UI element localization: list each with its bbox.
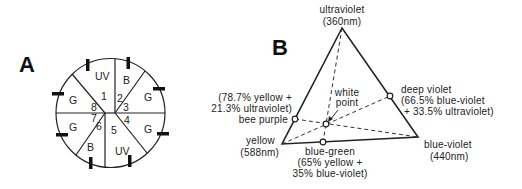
cell-number-3: 3 bbox=[123, 101, 129, 113]
panel-b-label: B bbox=[272, 35, 288, 60]
point-label-bee-purple: (78.7% yellow + 21.3% ultraviolet) bee p… bbox=[211, 92, 292, 125]
cell-number-4: 4 bbox=[124, 114, 130, 126]
bar-r3 bbox=[153, 87, 165, 91]
cell-number-5: 5 bbox=[111, 124, 117, 136]
receptor-label-3: G bbox=[144, 91, 152, 103]
blue-green-point bbox=[320, 139, 326, 145]
svg-text:(66.5% blue-violet: (66.5% blue-violet bbox=[401, 95, 485, 106]
bar-r8 bbox=[52, 92, 64, 96]
cell-number-1: 1 bbox=[101, 90, 107, 102]
svg-text:(440nm): (440nm) bbox=[430, 151, 469, 162]
panel-a: A UV B G bbox=[19, 52, 169, 169]
color-triangle bbox=[282, 28, 418, 144]
svg-text:blue-violet: blue-violet bbox=[424, 139, 472, 150]
svg-text:35% blue-violet): 35% blue-violet) bbox=[293, 168, 368, 179]
point-label-white: white point bbox=[334, 87, 360, 108]
receptor-label-8: G bbox=[69, 94, 77, 106]
bar-r6 bbox=[89, 157, 93, 169]
svg-text:yellow: yellow bbox=[246, 135, 276, 146]
bar-r1 bbox=[86, 59, 90, 71]
bar-r7 bbox=[56, 133, 68, 137]
mixing-lines bbox=[282, 28, 418, 144]
vertex-label-yellow: yellow (588nm) bbox=[240, 135, 279, 158]
line-bee-purple-to-blue-violet bbox=[295, 119, 418, 137]
receptor-label-6: B bbox=[87, 141, 94, 153]
white-point-marker bbox=[323, 121, 329, 127]
svg-text:(588nm): (588nm) bbox=[240, 147, 279, 158]
vertex-label-blue-violet: blue-violet (440nm) bbox=[424, 139, 472, 162]
bar-r2 bbox=[127, 57, 131, 69]
point-label-blue-green: blue-green (65% yellow + 35% blue-violet… bbox=[293, 146, 368, 179]
cell-number-6: 6 bbox=[96, 120, 102, 132]
svg-text:blue-green: blue-green bbox=[305, 146, 355, 157]
receptor-label-7: G bbox=[69, 121, 77, 133]
receptor-label-5: UV bbox=[115, 145, 130, 157]
receptor-label-2: B bbox=[123, 74, 130, 86]
panel-b: B ultraviolet (360nm) yellow (588nm) bbox=[211, 4, 494, 179]
svg-text:(65% yellow +: (65% yellow + bbox=[297, 157, 362, 168]
receptor-label-1: UV bbox=[95, 70, 110, 82]
svg-text:(360nm): (360nm) bbox=[323, 16, 362, 27]
figure: A UV B G bbox=[0, 0, 522, 189]
svg-text:21.3% ultraviolet): 21.3% ultraviolet) bbox=[211, 103, 292, 114]
svg-text:deep violet: deep violet bbox=[401, 84, 452, 95]
receptor-label-4: G bbox=[144, 123, 152, 135]
svg-text:(78.7% yellow +: (78.7% yellow + bbox=[218, 92, 292, 103]
svg-text:ultraviolet: ultraviolet bbox=[320, 4, 365, 15]
svg-text:+ 33.5% ultraviolet): + 33.5% ultraviolet) bbox=[404, 106, 494, 117]
bee-purple-point bbox=[292, 116, 298, 122]
panel-a-label: A bbox=[19, 52, 35, 77]
deep-violet-point bbox=[387, 93, 393, 99]
vertex-label-ultraviolet: ultraviolet (360nm) bbox=[320, 4, 365, 27]
cell-number-8: 8 bbox=[91, 101, 97, 113]
svg-text:point: point bbox=[336, 97, 359, 108]
svg-text:bee purple: bee purple bbox=[239, 114, 288, 125]
bar-r4 bbox=[157, 132, 169, 136]
cell-number-7: 7 bbox=[91, 112, 97, 124]
point-label-deep-violet: deep violet (66.5% blue-violet + 33.5% u… bbox=[401, 84, 494, 117]
